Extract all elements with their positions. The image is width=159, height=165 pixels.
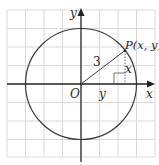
y-axis-label: y [69,6,77,20]
axes [7,8,155,162]
right-angle-marker [114,73,125,84]
coordinate-diagram: y x O P(x, y) 3 x y [0,0,159,165]
x-axis-label: x [146,87,153,101]
y-axis-arrow-icon [78,8,85,16]
origin-label: O [70,87,80,101]
point-p-label: P(x, y) [124,38,159,52]
horizontal-leg-label: y [98,87,106,101]
vertical-leg-label: x [125,62,132,76]
radius-label: 3 [93,55,101,69]
